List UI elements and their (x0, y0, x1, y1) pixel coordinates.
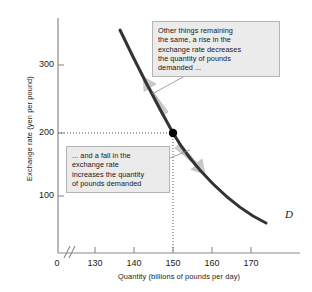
callout-rise-line-2: the same, a rise in the (158, 35, 274, 44)
origin-label: 0 (47, 258, 67, 268)
x-tick-label-140: 140 (119, 258, 149, 268)
callout-fall-line-2: exchange rate (72, 160, 164, 169)
y-tick-label-300: 300 (24, 59, 54, 69)
callout-rise-line-1: Other things remaining (158, 26, 274, 35)
callout-rise-line-4: the quantity of pounds (158, 54, 274, 63)
demand-curve-label: D (285, 208, 293, 220)
exchange-rate-demand-chart: Exchange rate (yen per pound) Quantity (… (0, 0, 312, 292)
y-axis-ticks (58, 65, 64, 196)
axis-break-icon (64, 246, 75, 258)
rise-callout-leader-line (152, 76, 185, 94)
equilibrium-point (169, 129, 177, 137)
callout-fall-in-exchange-rate: ... and a fall in the exchange rate incr… (66, 146, 170, 193)
callout-fall-line-4: of pounds demanded (72, 179, 164, 188)
x-tick-label-130: 130 (80, 258, 110, 268)
y-tick-label-100: 100 (24, 190, 54, 200)
x-tick-label-150: 150 (158, 258, 188, 268)
callout-rise-in-exchange-rate: Other things remaining the same, a rise … (152, 21, 280, 77)
x-tick-label-160: 160 (197, 258, 227, 268)
x-tick-label-170: 170 (236, 258, 266, 268)
callout-fall-line-3: increases the quantity (72, 170, 164, 179)
callout-rise-line-5: demanded ... (158, 63, 274, 72)
y-tick-label-200: 200 (24, 127, 54, 137)
callout-rise-line-3: exchange rate decreases (158, 45, 274, 54)
x-axis-title: Quantity (billions of pounds per day) (118, 272, 240, 281)
callout-fall-line-1: ... and a fall in the (72, 151, 164, 160)
